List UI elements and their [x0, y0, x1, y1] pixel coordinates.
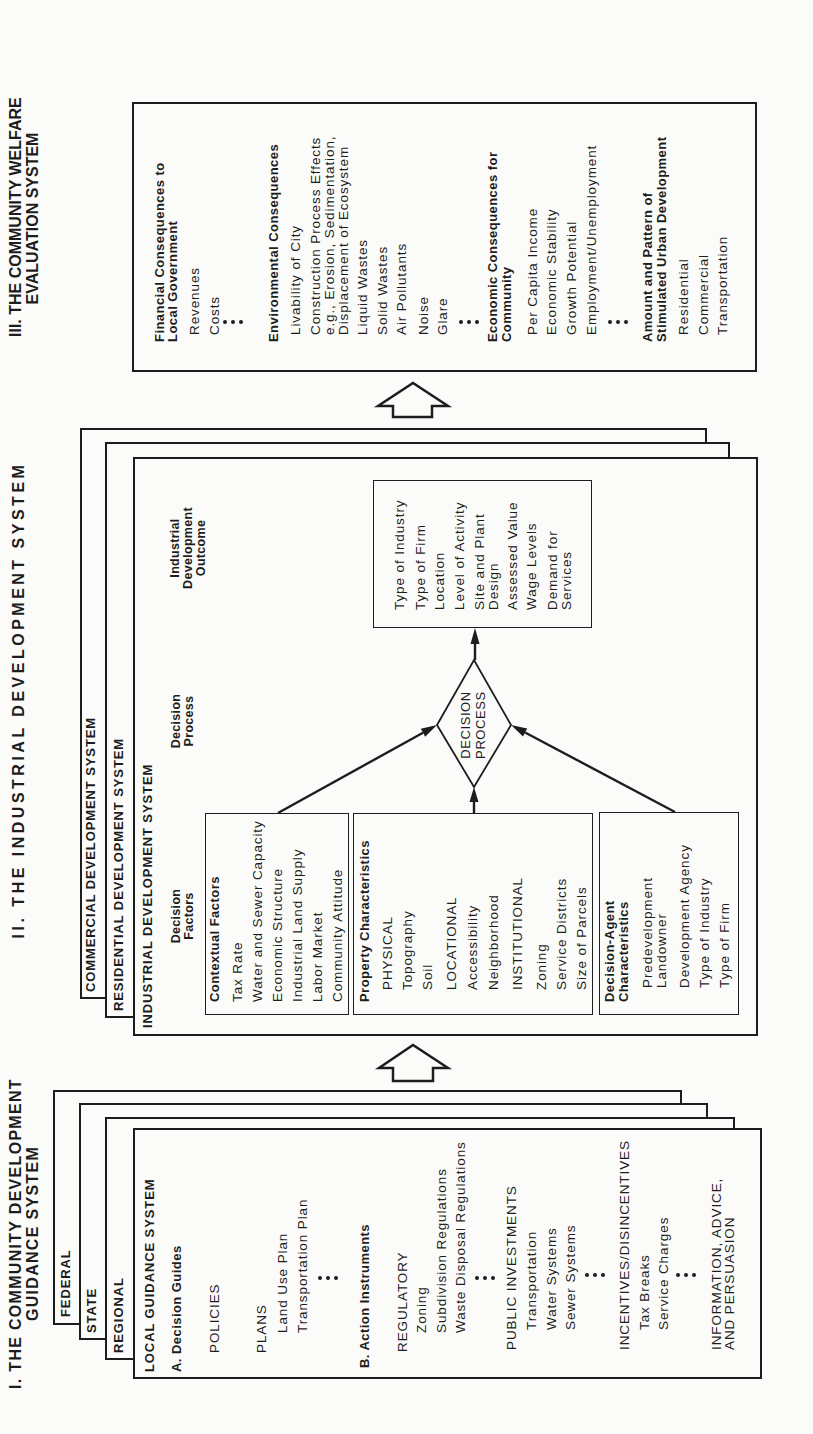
- decision-agent-heading: Decision-Agent Characteristics: [603, 900, 631, 1002]
- section-2-title: II. THE INDUSTRIAL DEVELOPMENT SYSTEM: [11, 460, 28, 940]
- urban-development-heading: Amount and Pattern of Stimulated Urban D…: [641, 137, 669, 342]
- institutional-item: Service Districts: [555, 878, 569, 990]
- section-1-title: I. THE COMMUNITY DEVELOPMENT GUIDANCE SY…: [8, 1077, 41, 1390]
- arrow-property-to-decision: [470, 787, 479, 813]
- environmental-item: Noise: [417, 296, 431, 335]
- environmental-item: Air Pollutants: [395, 243, 409, 335]
- ellipsis-icon: [676, 1273, 696, 1277]
- plans-label: PLANS: [255, 1304, 269, 1353]
- decision-agent-item: Type of Industry: [698, 878, 712, 988]
- incentive-item: Service Charges: [657, 1217, 671, 1330]
- public-investments-label: PUBLIC INVESTMENTS: [505, 1185, 519, 1350]
- environmental-consequences-heading: Environmental Consequences: [267, 144, 281, 342]
- outcome-item: Demand for Services: [546, 530, 574, 610]
- outcome-item: Assessed Value: [506, 502, 520, 610]
- institutional-item: Size of Parcels: [575, 886, 589, 990]
- residential-layer-label: RESIDENTIAL DEVELOPMENT SYSTEM: [111, 738, 127, 1011]
- plan-item: Transportation Plan: [296, 1199, 310, 1333]
- ellipsis-icon: [459, 320, 479, 324]
- public-investment-item: Transportation: [525, 1231, 539, 1330]
- economic-consequences-heading: Economic Consequences for Community: [486, 152, 514, 342]
- contextual-factor-item: Tax Rate: [231, 942, 245, 1002]
- federal-layer-label: FEDERAL: [58, 1249, 74, 1317]
- incentives-label: INCENTIVES/DISINCENTIVES: [618, 1140, 632, 1350]
- economic-item: Economic Stability: [545, 209, 559, 336]
- contextual-factor-item: Labor Market: [311, 912, 325, 1002]
- ellipsis-icon: [223, 320, 243, 324]
- contextual-factor-item: Industrial Land Supply: [291, 849, 305, 1002]
- decision-agent-item: Predevelopment Landowner: [641, 877, 669, 988]
- physical-item: Topography: [401, 910, 415, 990]
- action-instruments-heading: B. Action Instruments: [358, 1224, 372, 1368]
- arrow-contextual-to-decision: [278, 725, 437, 813]
- connectors-layer: [0, 0, 813, 1434]
- ellipsis-icon: [608, 320, 628, 324]
- ellipsis-icon: [318, 1276, 338, 1280]
- hollow-arrow-industrial-to-welfare-icon: [378, 383, 448, 417]
- contextual-factors-heading: Contextual Factors: [208, 876, 222, 1002]
- decision-factors-column-head: Decision Factors: [170, 866, 196, 966]
- ellipsis-icon: [585, 1273, 605, 1277]
- arrow-agent-to-decision: [511, 725, 675, 812]
- decision-agent-item: Development Agency: [678, 844, 692, 988]
- commercial-layer-label: COMMERCIAL DEVELOPMENT SYSTEM: [83, 717, 99, 992]
- arrow-decision-to-outcome: [471, 628, 480, 660]
- outcome-item: Wage Levels: [525, 523, 539, 610]
- outcome-item: Site and Plant Design: [473, 513, 501, 610]
- section-3-title: III. THE COMMUNITY WELFARE EVALUATION SY…: [8, 100, 41, 337]
- physical-item: Soil: [421, 964, 435, 990]
- property-characteristics-heading: Property Characteristics: [358, 840, 372, 1002]
- rotated-diagram: I. THE COMMUNITY DEVELOPMENT GUIDANCE SY…: [0, 0, 813, 1434]
- regulatory-label: REGULATORY: [396, 1251, 410, 1352]
- plan-item: Land Use Plan: [276, 1233, 290, 1333]
- physical-label: PHYSICAL: [381, 916, 395, 990]
- state-layer-label: STATE: [84, 1288, 100, 1333]
- contextual-factor-item: Water and Sewer Capacity: [251, 820, 265, 1002]
- urban-development-item: Transportation: [716, 236, 730, 335]
- ellipsis-icon: [475, 1276, 495, 1280]
- outcome-item: Location: [433, 552, 447, 610]
- public-investment-item: Water Systems: [545, 1227, 559, 1330]
- decision-agent-item: Type of Firm: [718, 902, 732, 988]
- urban-development-item: Commercial: [697, 254, 711, 335]
- outcome-item: Type of Industry: [393, 500, 407, 610]
- financial-item: Costs: [208, 296, 222, 335]
- decision-process-column-head: Decision Process: [170, 671, 196, 771]
- locational-item: Neighborhood: [487, 894, 501, 990]
- institutional-label: INSTITUTIONAL: [511, 877, 525, 990]
- environmental-item: Liquid Wastes: [356, 239, 370, 335]
- regional-layer-label: REGIONAL: [111, 1277, 127, 1353]
- institutional-item: Zoning: [535, 943, 549, 990]
- locational-item: Accessibility: [466, 905, 480, 990]
- local-layer-label: LOCAL GUIDANCE SYSTEM: [142, 1179, 158, 1372]
- public-investment-item: Sewer Systems: [564, 1225, 578, 1330]
- locational-label: LOCATIONAL: [445, 896, 459, 990]
- urban-development-item: Residential: [677, 258, 691, 335]
- hollow-arrow-guidance-to-industrial-icon: [379, 1045, 448, 1081]
- economic-item: Per Capita Income: [526, 208, 540, 335]
- financial-consequences-heading: Financial Consequences to Local Governme…: [153, 162, 179, 342]
- regulatory-item: Waste Disposal Regulations: [454, 1141, 468, 1333]
- environmental-item: Solid Wastes: [376, 246, 390, 335]
- environmental-item: Construction Process Effects e.g., Erosi…: [309, 136, 351, 335]
- industrial-layer-label: INDUSTRIAL DEVELOPMENT SYSTEM: [140, 764, 156, 1028]
- development-outcome-column-head: Industrial Development Outcome: [169, 498, 208, 598]
- environmental-item: Glare: [436, 297, 450, 335]
- information-label: INFORMATION, ADVICE, AND PERSUASION: [710, 1178, 736, 1350]
- regulatory-item: Subdivision Regulations: [435, 1168, 449, 1333]
- incentive-item: Tax Breaks: [638, 1254, 652, 1330]
- policies-label: POLICIES: [208, 1284, 222, 1353]
- contextual-factor-item: Economic Structure: [271, 868, 285, 1002]
- economic-item: Growth Potential: [565, 221, 579, 335]
- regulatory-item: Zoning: [415, 1286, 429, 1333]
- financial-item: Revenues: [188, 267, 202, 335]
- decision-process-node-label: DECISION PROCESS: [459, 685, 488, 765]
- contextual-factor-item: Community Attitude: [331, 869, 345, 1002]
- outcome-item: Level of Activity: [453, 502, 467, 610]
- decision-guides-heading: A. Decision Guides: [170, 1245, 184, 1372]
- environmental-item: Livability of City: [289, 225, 303, 335]
- economic-item: Employment/Unemployment: [585, 145, 599, 335]
- outcome-item: Type of Firm: [414, 524, 428, 610]
